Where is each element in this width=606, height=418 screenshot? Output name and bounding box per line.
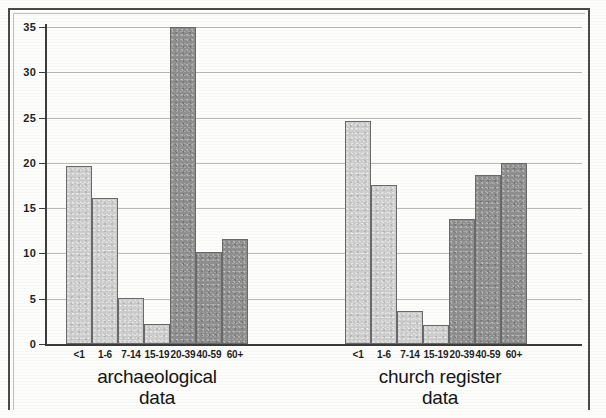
y-tick-label-35: 35 [4, 22, 36, 33]
y-tick-label-wrap-5: 5 [4, 294, 36, 306]
group-label-church-register-line1: church register [310, 366, 570, 387]
bar-0-2 [118, 298, 144, 344]
group-label-church-register: church register data [310, 366, 570, 409]
group-label-church-register-line2: data [310, 387, 570, 408]
bar-0-1 [92, 198, 118, 344]
y-tick-label-15: 15 [4, 203, 36, 214]
bar-1-4 [449, 219, 475, 344]
y-tick-label-10: 10 [4, 248, 36, 259]
x-tick-label-1-6: 60+ [496, 350, 532, 360]
x-tick-label-0-6: 60+ [217, 350, 253, 360]
y-tick-label-wrap-20: 20 [4, 158, 36, 170]
bar-1-0 [345, 121, 371, 344]
group-label-archaeological-line1: archaeological [27, 366, 287, 387]
bar-1-1 [371, 185, 397, 344]
group-label-archaeological-line2: data [27, 387, 287, 408]
y-tick-label-5: 5 [4, 294, 36, 305]
bar-0-6 [222, 239, 248, 344]
bar-group-church-register [345, 24, 527, 344]
bar-0-5 [196, 252, 222, 344]
bar-chart: 05101520253035 <11-67-1415-1920-3940-596… [0, 0, 606, 418]
bar-1-2 [397, 311, 423, 345]
bar-1-3 [423, 325, 449, 344]
y-tick-label-0: 0 [4, 339, 36, 350]
y-tick-label-30: 30 [4, 67, 36, 78]
y-tick-label-25: 25 [4, 113, 36, 124]
y-axis-line [45, 24, 47, 346]
y-tick-label-wrap-35: 35 [4, 22, 36, 34]
bar-group-archaeological [66, 24, 248, 344]
y-tick-label-wrap-25: 25 [4, 113, 36, 125]
bar-0-3 [144, 324, 170, 344]
x-axis-line [45, 344, 582, 346]
y-tick-label-wrap-30: 30 [4, 67, 36, 79]
y-tick-label-wrap-10: 10 [4, 248, 36, 260]
y-tick-label-wrap-15: 15 [4, 203, 36, 215]
bar-1-5 [475, 175, 501, 344]
y-tick-label-20: 20 [4, 158, 36, 169]
group-label-archaeological: archaeological data [27, 366, 287, 409]
bar-0-0 [66, 166, 92, 344]
y-tick-label-wrap-0: 0 [4, 339, 36, 351]
bar-0-4 [170, 27, 196, 344]
bar-1-6 [501, 163, 527, 344]
